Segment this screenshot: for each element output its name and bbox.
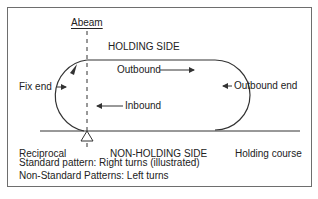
- fix-end-label: Fix end: [19, 81, 52, 93]
- inbound-label: Inbound: [125, 100, 161, 112]
- outbound-label: Outbound: [117, 64, 161, 76]
- holding-course-label: Holding course: [235, 148, 302, 160]
- fix-triangle-icon: [81, 131, 93, 141]
- note-non-standard-pattern: Non-Standard Patterns: Left turns: [19, 170, 169, 182]
- outbound-end-label: Outbound end: [234, 80, 297, 92]
- abeam-label: Abeam: [71, 17, 103, 29]
- note-standard-pattern: Standard pattern: Right turns (illustrat…: [19, 157, 200, 169]
- holding-side-label: HOLDING SIDE: [108, 41, 180, 53]
